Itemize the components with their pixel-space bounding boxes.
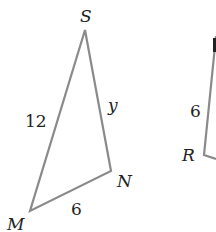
vertex-label-s: S	[80, 6, 92, 26]
partial-label-glyph	[213, 38, 216, 52]
vertex-label-n: N	[116, 171, 133, 191]
vertex-label-m: M	[6, 214, 25, 232]
side-label-sm: 12	[25, 111, 47, 131]
vertex-label-r: R	[181, 145, 195, 165]
side-label-sn: y	[107, 95, 118, 115]
triangle-2-partial	[204, 36, 216, 159]
side-label-r-side: 6	[190, 101, 201, 121]
side-label-mn: 6	[71, 199, 82, 219]
similar-triangles-diagram: S N M 12 y 6 6 R	[0, 0, 216, 232]
